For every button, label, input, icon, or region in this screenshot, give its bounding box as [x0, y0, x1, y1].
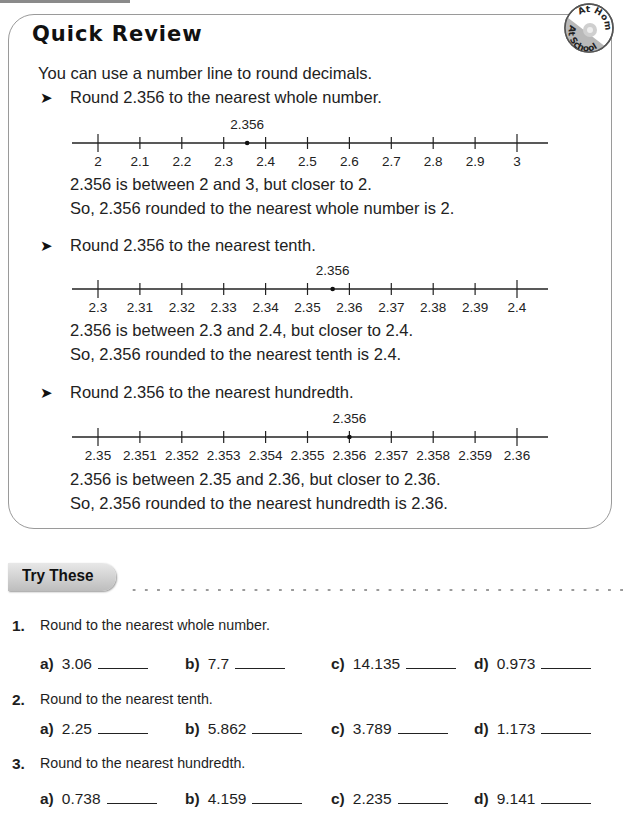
arrow-bullet-icon: ➤: [40, 237, 53, 255]
tick-label: 2.357: [374, 448, 408, 463]
example-3-explanation: 2.356 is between 2.35 and 2.36, but clos…: [70, 470, 441, 489]
question-1-number: 1.: [12, 617, 25, 635]
answer-blank[interactable]: [252, 732, 302, 734]
question-2-prompt: Round to the nearest tenth.: [40, 690, 213, 708]
answer-blank[interactable]: [406, 667, 456, 669]
question-1c: c)14.135: [331, 655, 456, 673]
example-2-prompt: Round 2.356 to the nearest tenth.: [70, 236, 316, 255]
tick-label: 2.4: [508, 300, 527, 315]
question-1-prompt: Round to the nearest whole number.: [40, 616, 270, 634]
tick-label: 2.35: [294, 300, 320, 315]
tick-label: 2.1: [131, 154, 150, 169]
header-bar: [0, 0, 130, 3]
tick-label: 2.36: [336, 300, 362, 315]
tick-label: 2.5: [298, 154, 317, 169]
example-2-explanation: 2.356 is between 2.3 and 2.4, but closer…: [70, 321, 413, 340]
answer-blank[interactable]: [98, 667, 148, 669]
tick-label: 2.37: [378, 300, 404, 315]
question-3d: d)9.141: [474, 790, 591, 808]
tick-label: 2.3: [89, 300, 108, 315]
answer-blank[interactable]: [541, 802, 591, 804]
answer-blank[interactable]: [252, 802, 302, 804]
tick-label: 2.2: [172, 154, 191, 169]
dotted-divider: [128, 588, 624, 592]
tick-label: 2.6: [340, 154, 359, 169]
tick-label: 2.39: [462, 300, 488, 315]
question-3-prompt: Round to the nearest hundredth.: [40, 754, 245, 772]
example-3-prompt: Round 2.356 to the nearest hundredth.: [70, 383, 353, 402]
answer-blank[interactable]: [98, 732, 148, 734]
tick-label: 2.7: [382, 154, 401, 169]
example-3-conclusion: So, 2.356 rounded to the nearest hundred…: [70, 494, 448, 513]
tick-label: 2.36: [504, 448, 530, 463]
try-these-label: Try These: [22, 566, 93, 586]
at-home-at-school-icon: At Home At School: [563, 2, 615, 54]
tick-label: 2.32: [169, 300, 195, 315]
tick-label: 2.358: [416, 448, 450, 463]
answer-blank[interactable]: [541, 667, 591, 669]
question-3a: a)0.738: [40, 790, 157, 808]
tick-label: 2.3: [214, 154, 233, 169]
tick-label: 2.356: [332, 448, 366, 463]
tick-label: 2.9: [466, 154, 485, 169]
answer-blank[interactable]: [398, 732, 448, 734]
question-2-number: 2.: [12, 691, 25, 709]
answer-blank[interactable]: [541, 732, 591, 734]
tick-label: 2.38: [420, 300, 446, 315]
intro-text: You can use a number line to round decim…: [38, 64, 372, 83]
tick-label: 2.351: [123, 448, 157, 463]
example-1-prompt: Round 2.356 to the nearest whole number.: [70, 88, 382, 107]
question-2b: b)5.862: [185, 720, 302, 738]
tick-label: 2.354: [249, 448, 283, 463]
tick-label: 2.352: [165, 448, 199, 463]
tick-label: 2.31: [127, 300, 153, 315]
number-line-whole: 22.12.22.32.42.52.62.72.82.932.356: [72, 117, 548, 167]
tick-label: 2.359: [458, 448, 492, 463]
tick-label: 2.355: [291, 448, 325, 463]
question-1a: a)3.06: [40, 655, 148, 673]
arrow-bullet-icon: ➤: [40, 384, 53, 402]
question-3-number: 3.: [12, 755, 25, 773]
number-line-tenth: 2.32.312.322.332.342.352.362.372.382.392…: [72, 263, 548, 313]
tick-label: 2.8: [424, 154, 443, 169]
tick-label: 2.4: [256, 154, 275, 169]
quick-review-title: Quick Review: [32, 22, 203, 46]
question-2d: d)1.173: [474, 720, 591, 738]
tick-label: 2.34: [252, 300, 278, 315]
question-3c: c)2.235: [331, 790, 448, 808]
example-1-explanation: 2.356 is between 2 and 3, but closer to …: [70, 175, 372, 194]
question-1b: b)7.7: [185, 655, 285, 673]
marker-label: 2.356: [316, 263, 350, 278]
example-2-conclusion: So, 2.356 rounded to the nearest tenth i…: [70, 345, 401, 364]
marker-label: 2.356: [332, 411, 366, 426]
example-1-conclusion: So, 2.356 rounded to the nearest whole n…: [70, 199, 454, 218]
answer-blank[interactable]: [107, 802, 157, 804]
question-2c: c)3.789: [331, 720, 448, 738]
tick-label: 2: [94, 154, 102, 169]
number-line-hundredth: 2.352.3512.3522.3532.3542.3552.3562.3572…: [72, 411, 548, 461]
tick-label: 2.353: [207, 448, 241, 463]
try-these-heading: Try These: [8, 563, 116, 591]
tick-label: 2.33: [211, 300, 237, 315]
arrow-bullet-icon: ➤: [40, 89, 53, 107]
tick-label: 2.35: [85, 448, 111, 463]
question-3b: b)4.159: [185, 790, 302, 808]
answer-blank[interactable]: [235, 667, 285, 669]
marker-label: 2.356: [230, 117, 264, 132]
question-2a: a)2.25: [40, 720, 148, 738]
question-1d: d)0.973: [474, 655, 591, 673]
answer-blank[interactable]: [398, 802, 448, 804]
tick-label: 3: [513, 154, 521, 169]
